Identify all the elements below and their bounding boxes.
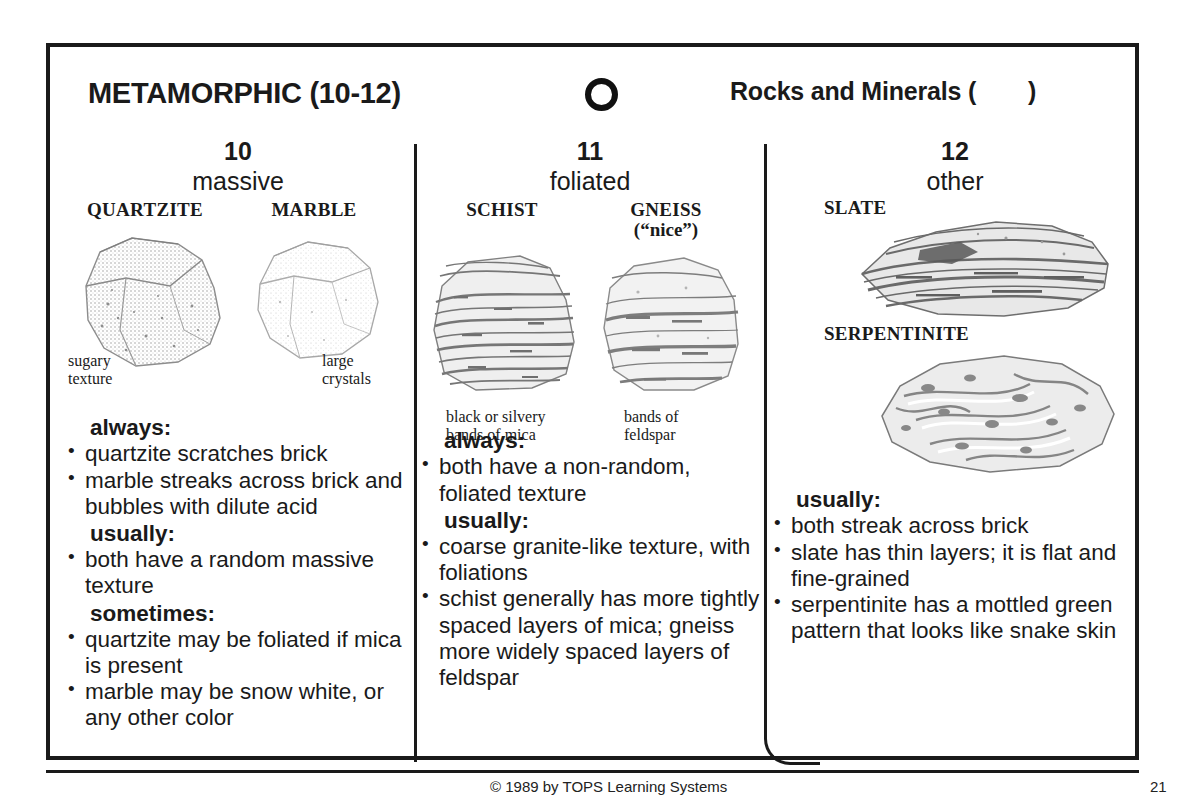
rock-image-marble	[250, 232, 390, 372]
list-item-text: coarse granite-like texture, with foliat…	[439, 534, 750, 585]
list-item: •marble streaks across brick and bubbles…	[64, 468, 412, 520]
copyright-notice: © 1989 by TOPS Learning Systems	[490, 778, 727, 795]
list-item-text: schist generally has more tightly spaced…	[439, 586, 759, 690]
column-number: 12	[770, 139, 1140, 164]
column-other: 12 other SLATE	[770, 139, 1140, 644]
footer-rule	[46, 770, 1139, 773]
list-item: •slate has thin layers; it is flat and f…	[770, 540, 1140, 592]
list-item: •marble may be snow white, or any other …	[64, 679, 412, 731]
series-title-close: )	[1028, 77, 1036, 105]
series-title: Rocks and Minerals ()	[730, 77, 1036, 106]
specimen-label-marble: MARBLE	[244, 200, 384, 219]
section-heading: sometimes:	[64, 601, 412, 627]
list-item-text: serpentinite has a mottled green pattern…	[791, 592, 1116, 643]
fact-list: •both streak across brick •slate has thi…	[770, 513, 1140, 644]
specimen-label-gneiss: GNEISS	[596, 200, 736, 219]
list-item: •both streak across brick	[770, 513, 1140, 539]
bullet-icon: •	[422, 585, 429, 607]
fact-list: •quartzite may be foliated if mica is pr…	[64, 627, 412, 732]
bullet-icon: •	[422, 453, 429, 475]
list-item-text: slate has thin layers; it is flat and fi…	[791, 540, 1116, 591]
list-item: •serpentinite has a mottled green patter…	[770, 592, 1140, 644]
fact-list: •both have a non-random, foliated textur…	[418, 454, 762, 506]
page-title: METAMORPHIC (10-12)	[88, 77, 401, 110]
list-item-text: both have a random massive texture	[85, 547, 374, 598]
list-item-text: marble may be snow white, or any other c…	[85, 679, 384, 730]
header-band: METAMORPHIC (10-12) Rocks and Minerals (…	[50, 47, 1135, 107]
rock-image-gneiss	[598, 252, 748, 398]
specimen-pronunciation-gneiss: (“nice”)	[596, 220, 736, 240]
facts-massive: always: •quartzite scratches brick •marb…	[64, 415, 412, 731]
bullet-icon: •	[68, 440, 75, 462]
rock-image-slate	[856, 216, 1116, 324]
worksheet-card: METAMORPHIC (10-12) Rocks and Minerals (…	[46, 43, 1139, 760]
caption-schist: black or silverybands of mica	[446, 408, 586, 443]
column-number: 10	[64, 139, 412, 164]
specimen-label-slate: SLATE	[824, 198, 944, 217]
caption-marble: largecrystals	[322, 352, 432, 387]
bullet-icon: •	[68, 546, 75, 568]
column-subtitle: other	[770, 168, 1140, 194]
page-number: 21	[1150, 778, 1167, 795]
list-item: •quartzite scratches brick	[64, 441, 412, 467]
fact-list: •both have a random massive texture	[64, 547, 412, 599]
list-item: •schist generally has more tightly space…	[418, 586, 762, 691]
fact-list: •coarse granite-like texture, with folia…	[418, 534, 762, 691]
specimen-label-serpentinite: SERPENTINITE	[824, 324, 1034, 343]
caption-gneiss: bands offeldspar	[624, 408, 744, 443]
bullet-icon: •	[68, 467, 75, 489]
column-massive: 10 massive QUARTZITE MARBLE	[64, 139, 412, 732]
column-divider-2-curve	[764, 735, 820, 765]
list-item-text: marble streaks across brick and bubbles …	[85, 468, 403, 519]
facts-other: usually: •both streak across brick •slat…	[770, 487, 1140, 644]
list-item-text: both streak across brick	[791, 513, 1029, 538]
list-item: •both have a random massive texture	[64, 547, 412, 599]
list-item: •coarse granite-like texture, with folia…	[418, 534, 762, 586]
column-divider-2	[764, 144, 767, 739]
series-title-text: Rocks and Minerals (	[730, 77, 976, 105]
bullet-icon: •	[774, 591, 781, 613]
bullet-icon: •	[774, 539, 781, 561]
list-item-text: both have a non-random, foliated texture	[439, 454, 690, 505]
list-item-text: quartzite scratches brick	[85, 441, 328, 466]
column-subtitle: massive	[64, 168, 412, 194]
list-item-text: quartzite may be foliated if mica is pre…	[85, 627, 401, 678]
specimen-label-quartzite: QUARTZITE	[70, 200, 220, 219]
column-subtitle: foliated	[418, 168, 762, 194]
section-heading: usually:	[418, 508, 762, 534]
fact-list: •quartzite scratches brick •marble strea…	[64, 441, 412, 520]
section-heading: usually:	[64, 521, 412, 547]
list-item: •quartzite may be foliated if mica is pr…	[64, 627, 412, 679]
column-number: 11	[418, 139, 762, 164]
bullet-icon: •	[68, 626, 75, 648]
rock-image-schist	[424, 246, 584, 398]
rock-image-serpentinite	[874, 350, 1124, 478]
specimen-label-schist: SCHIST	[432, 200, 572, 219]
facts-foliated: always: •both have a non-random, foliate…	[418, 428, 762, 691]
list-item: •both have a non-random, foliated textur…	[418, 454, 762, 506]
open-circle-icon	[585, 78, 618, 111]
bullet-icon: •	[774, 512, 781, 534]
column-foliated: 11 foliated SCHIST GNEISS (“nice”)	[418, 139, 762, 691]
bullet-icon: •	[422, 533, 429, 555]
column-divider-1	[414, 144, 417, 762]
caption-quartzite: sugarytexture	[68, 352, 178, 387]
bullet-icon: •	[68, 678, 75, 700]
